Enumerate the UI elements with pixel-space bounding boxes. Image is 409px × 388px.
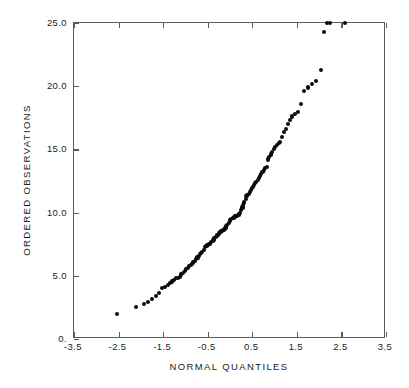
scatter-series-ordered-observations xyxy=(74,23,384,337)
data-point xyxy=(314,79,318,83)
x-tick-7 xyxy=(386,332,387,337)
y-tick-label-3: 15.0 xyxy=(0,143,67,154)
data-point xyxy=(343,21,347,25)
data-point xyxy=(299,102,303,106)
data-point xyxy=(288,118,292,122)
data-point xyxy=(306,85,310,89)
x-tick-label-6: 2.5 xyxy=(333,341,347,352)
x-axis-title: NORMAL QUANTILES xyxy=(73,361,385,372)
data-point xyxy=(296,110,300,114)
data-point xyxy=(265,165,269,169)
data-point xyxy=(284,127,288,131)
data-point xyxy=(278,140,282,144)
y-tick-label-2: 10.0 xyxy=(0,206,67,217)
data-point xyxy=(286,122,290,126)
data-point xyxy=(242,200,246,204)
y-tick-0 xyxy=(74,339,79,340)
x-tick-label-2: -1.5 xyxy=(153,341,171,352)
data-point xyxy=(322,30,326,34)
qq-plot-figure: ORDERED OBSERVATIONS 0.5.010.015.020.025… xyxy=(0,0,409,388)
data-point xyxy=(319,68,323,72)
y-tick-label-1: 5.0 xyxy=(0,269,67,280)
x-tick-label-7: 3.5 xyxy=(378,341,392,352)
data-point xyxy=(157,291,161,295)
y-tick-label-0: 0. xyxy=(0,333,67,344)
data-point xyxy=(280,135,284,139)
data-point xyxy=(115,312,119,316)
data-point xyxy=(302,89,306,93)
data-point xyxy=(146,300,150,304)
data-point xyxy=(134,305,138,309)
x-tick-label-0: -3.5 xyxy=(64,341,82,352)
x-tick-label-4: 0.5 xyxy=(244,341,258,352)
x-tick-top-7 xyxy=(386,23,387,28)
y-axis-title: ORDERED OBSERVATIONS xyxy=(21,104,32,256)
data-point xyxy=(328,21,332,25)
plot-area xyxy=(73,22,385,338)
x-tick-label-3: -0.5 xyxy=(198,341,216,352)
y-axis-title-container: ORDERED OBSERVATIONS xyxy=(18,22,34,338)
y-tick-label-4: 20.0 xyxy=(0,80,67,91)
y-tick-label-5: 25.0 xyxy=(0,17,67,28)
x-tick-label-5: 1.5 xyxy=(289,341,303,352)
data-point xyxy=(310,82,314,86)
x-tick-label-1: -2.5 xyxy=(109,341,127,352)
